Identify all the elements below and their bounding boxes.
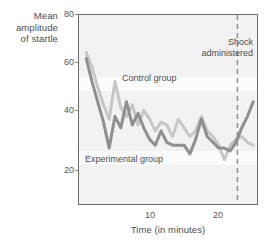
series-label-control: Control group xyxy=(122,73,177,83)
y-axis-title-line-2: amplitude xyxy=(2,22,58,34)
shock-annotation-line-1: Shock xyxy=(106,37,253,48)
shock-annotation-line-2: administered xyxy=(106,48,253,59)
y-axis-title-line-1: Mean xyxy=(2,10,58,22)
x-tick-label-20: 20 xyxy=(206,210,230,220)
plot-area: Shock administered Control group Experim… xyxy=(78,14,258,205)
y-tick-label-60: 60 xyxy=(52,57,74,67)
y-tick-label-80: 80 xyxy=(52,9,74,19)
startle-amplitude-line-chart: Mean amplitude of startle 80 60 40 20 10… xyxy=(0,0,272,245)
y-tick-label-40: 40 xyxy=(52,105,74,115)
y-axis-title-line-3: of startle xyxy=(2,33,58,45)
x-tick-label-10: 10 xyxy=(138,210,162,220)
series-label-experimental: Experimental group xyxy=(85,154,163,164)
shock-administered-annotation: Shock administered xyxy=(106,37,256,59)
y-axis-title: Mean amplitude of startle xyxy=(2,10,58,45)
y-tick-label-20: 20 xyxy=(52,165,74,175)
x-axis-title: Time (in minutes) xyxy=(78,224,258,235)
